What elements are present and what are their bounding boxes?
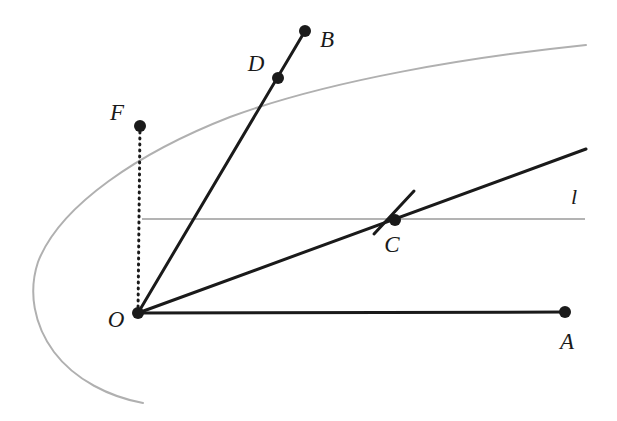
point-o (132, 307, 144, 319)
point-a (559, 306, 571, 318)
label-a: A (558, 329, 575, 354)
geometry-figure: OABCDF l (0, 0, 617, 421)
point-c (389, 214, 401, 226)
label-f: F (109, 100, 125, 125)
line-l-label: l (571, 184, 577, 209)
point-d (272, 72, 284, 84)
point-labels-group: OABCDF (108, 27, 575, 354)
points-group (132, 25, 571, 319)
label-d: D (247, 51, 265, 76)
label-c: C (384, 232, 400, 257)
label-o: O (108, 307, 125, 332)
segments-group (138, 31, 586, 313)
tangent-at-c (374, 191, 414, 234)
point-f (134, 120, 146, 132)
parabola-curve (33, 45, 586, 403)
point-b (299, 25, 311, 37)
ray-o-through-c (138, 149, 586, 313)
segment-oa (138, 312, 565, 313)
label-b: B (320, 27, 334, 52)
figure-canvas: OABCDF l (0, 0, 617, 421)
dotted-segment-fo (138, 126, 140, 313)
